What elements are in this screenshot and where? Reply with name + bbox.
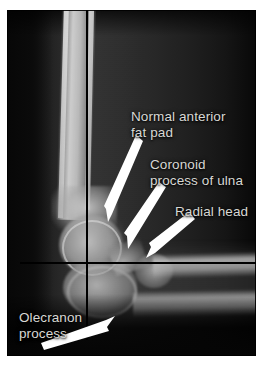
film-bottom-shadow [7, 294, 256, 356]
film-top-shadow [7, 10, 256, 36]
horizontal-reference-line [20, 262, 256, 264]
radius-shaft [153, 252, 256, 279]
vertical-reference-line [86, 10, 88, 340]
radiograph-plate: Normal anterior fat pad Coronoid process… [7, 10, 256, 356]
figure-page: Normal anterior fat pad Coronoid process… [0, 0, 265, 369]
